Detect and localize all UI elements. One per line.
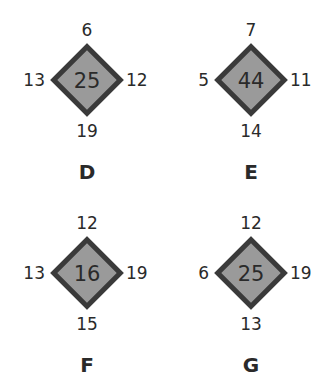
bottom-number: 14 [231,121,271,141]
center-number: 44 [231,70,271,92]
puzzle-d: 25 6 19 13 12 D [0,0,164,196]
left-number: 5 [179,70,209,90]
right-number: 19 [126,263,156,283]
puzzle-label: G [231,353,271,377]
left-number: 13 [15,70,45,90]
puzzle-g: 25 12 13 6 19 G [164,193,328,389]
center-number: 25 [231,263,271,285]
right-number: 12 [126,70,156,90]
right-number: 19 [290,263,320,283]
bottom-number: 19 [67,121,107,141]
bottom-number: 15 [67,314,107,334]
center-number: 16 [67,263,107,285]
bottom-number: 13 [231,314,271,334]
left-number: 6 [179,263,209,283]
top-number: 7 [231,20,271,40]
puzzle-label: E [231,160,271,184]
top-number: 6 [67,20,107,40]
puzzle-f: 16 12 15 13 19 F [0,193,164,389]
top-number: 12 [67,213,107,233]
puzzle-label: D [67,160,107,184]
top-number: 12 [231,213,271,233]
right-number: 11 [290,70,320,90]
center-number: 25 [67,70,107,92]
left-number: 13 [15,263,45,283]
puzzle-label: F [67,353,107,377]
puzzle-e: 44 7 14 5 11 E [164,0,328,196]
